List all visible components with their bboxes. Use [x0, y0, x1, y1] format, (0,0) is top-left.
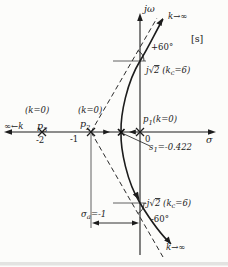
imag-axis-top-arrow-icon [137, 13, 143, 21]
pole-p2-subscript: 2 [85, 124, 90, 132]
centroid-label: σa=-1 [81, 209, 106, 221]
imag-axis-label: jω [142, 3, 155, 14]
breakaway-value: =-0.422 [158, 142, 192, 152]
centroid-dim-left-arrow-icon [92, 221, 99, 226]
lower-angle-label: -60° [151, 214, 169, 224]
lower-crossing-gain: (k [160, 198, 171, 208]
pole-p2-label: p2 [80, 118, 90, 132]
gain-arrow-top-label: k→∞ [168, 11, 187, 21]
root-locus-figure: jω σ 0 -1 -2 ∞←k k→∞ k→∞ [s] (k=0) p3 (k… [0, 0, 228, 267]
lower-crossing-prefix: -j√ [144, 198, 156, 208]
upper-angle-label: +60° [151, 42, 173, 52]
tick-minus2-label: -2 [36, 135, 44, 145]
pole-p1-condition: (k=0) [153, 114, 177, 124]
pole-p2-condition: (k=0) [78, 105, 102, 115]
tick-minus1-label: -1 [70, 134, 78, 144]
pole-p3-condition: (k=0) [25, 105, 49, 115]
lower-crossing-label: -j√2 (kc=6) [144, 198, 191, 210]
centroid-dim-right-arrow-icon [132, 221, 139, 226]
s-plane-canvas: jω σ 0 -1 -2 ∞←k k→∞ k→∞ [s] (k=0) p3 (k… [0, 0, 228, 267]
real-axis-label: σ [206, 134, 213, 145]
upper-branch-arrow-icon [156, 18, 163, 26]
breakaway-label: s1=-0.422 [149, 142, 192, 154]
gain-arrow-left-label: ∞←k [4, 121, 23, 131]
upper-crossing-prefix: j√ [144, 65, 155, 75]
pole-p1-label: p1(k=0) [143, 114, 177, 127]
upper-crossing-gain-value: =6) [174, 65, 190, 75]
plane-label: [s] [191, 33, 203, 44]
locus-arrow-from-p1-icon [129, 129, 136, 134]
lower-crossing-gain-value: =6) [175, 198, 191, 208]
gain-arrow-bottom-label: k→∞ [166, 242, 185, 252]
upper-crossing-gain: (k [159, 65, 170, 75]
pole-p3-subscript: 3 [43, 126, 47, 134]
scan-shadow [0, 262, 228, 266]
locus-arrow-from-p2-icon [103, 129, 110, 134]
centroid-value: =-1 [91, 209, 106, 219]
upper-crossing-label: j√2 (kc=6) [144, 65, 190, 77]
